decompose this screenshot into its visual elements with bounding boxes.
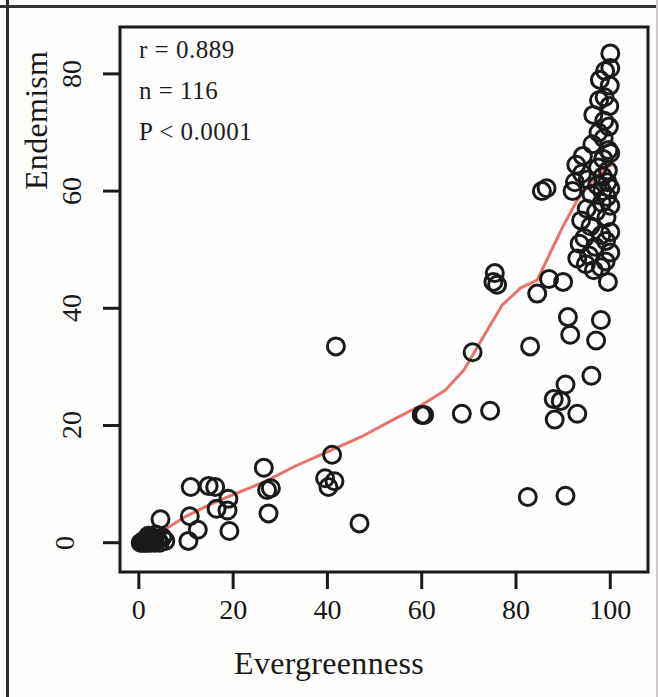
x-axis-label: Evergreenness bbox=[0, 645, 658, 682]
scatter-plot-figure: r = 0.889 n = 116 P < 0.0001 02040608010… bbox=[0, 0, 658, 697]
x-tick-label: 20 bbox=[219, 594, 247, 626]
x-tick-label: 0 bbox=[132, 594, 146, 626]
y-tick-label: 20 bbox=[56, 411, 88, 439]
annotation-correlation: r = 0.889 bbox=[139, 36, 235, 64]
plot-canvas bbox=[0, 0, 658, 697]
y-tick-label: 60 bbox=[56, 177, 88, 205]
y-tick-label: 40 bbox=[56, 294, 88, 322]
y-axis-label: Endemism bbox=[18, 51, 55, 190]
x-axis-ticks bbox=[139, 572, 610, 589]
x-tick-label: 100 bbox=[589, 594, 631, 626]
y-tick-label: 0 bbox=[49, 536, 81, 550]
x-tick-label: 40 bbox=[313, 594, 341, 626]
x-tick-label: 80 bbox=[502, 594, 530, 626]
annotation-pvalue: P < 0.0001 bbox=[139, 118, 252, 146]
x-tick-label: 60 bbox=[408, 594, 436, 626]
y-axis-ticks bbox=[103, 74, 120, 543]
annotation-sample-size: n = 116 bbox=[139, 77, 218, 105]
y-tick-label: 80 bbox=[56, 60, 88, 88]
